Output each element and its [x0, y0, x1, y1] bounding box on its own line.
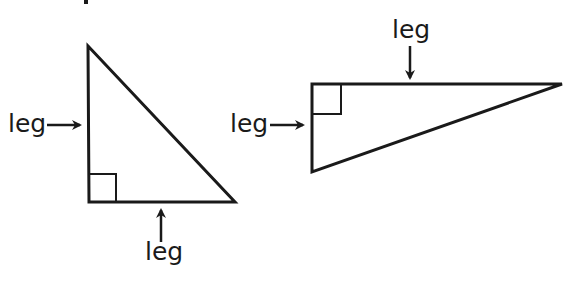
leg-label-left: leg	[8, 109, 46, 138]
right-angle-marker	[89, 174, 116, 202]
wide-triangle: leg leg	[230, 15, 562, 172]
leg-label-top: leg	[392, 15, 430, 44]
leg-label-left: leg	[230, 109, 268, 138]
diagram-canvas: leg leg leg leg	[0, 0, 583, 282]
tall-triangle: leg leg	[8, 46, 235, 266]
right-angle-marker	[312, 84, 341, 114]
triangle-shape	[312, 84, 562, 172]
triangle-shape	[88, 46, 235, 202]
cropped-glyph	[84, 0, 88, 4]
leg-label-bottom: leg	[145, 237, 183, 266]
